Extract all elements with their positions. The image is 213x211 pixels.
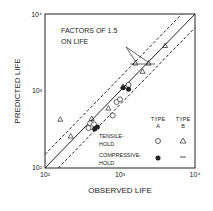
legend-type-a-l1: TYPE: [151, 116, 166, 122]
legend-tensile-l2: HOLD: [99, 141, 114, 147]
x-axis-label: OBSERVED LIFE: [88, 186, 151, 195]
legend-type-b-l1: TYPE: [176, 116, 191, 122]
legend-filled-circle-icon: [156, 156, 161, 161]
x-tick-100: 10²: [40, 171, 51, 178]
y-axis-label: PREDICTED LIFE: [13, 58, 22, 123]
chart: 10² 10³ 10⁴ 10² 10³ 10⁴ OBSERVED LIFE PR…: [0, 0, 213, 211]
data-point: [68, 134, 73, 139]
legend-tensile-l1: TENSILE-: [99, 133, 124, 139]
legend-type-a-l2: A: [156, 123, 160, 129]
x-tick-10000: 10⁴: [190, 171, 201, 178]
data-point: [126, 82, 131, 87]
legend-triangle-icon: [180, 138, 186, 143]
data-point: [106, 106, 111, 111]
x-tick-1000: 10³: [115, 171, 126, 178]
data-point: [86, 126, 91, 131]
data-point: [58, 117, 63, 122]
data-point: [110, 113, 115, 118]
legend-open-circle-icon: [156, 139, 161, 144]
data-point: [121, 85, 126, 90]
legend-compressive-l2: HOLD: [99, 160, 114, 166]
data-point: [95, 125, 100, 130]
annotation-line2: ON LIFE: [61, 38, 89, 45]
y-tick-1000: 10³: [32, 87, 43, 94]
legend-compressive-l1: COMPRESSIVE-: [99, 152, 141, 158]
data-point: [126, 87, 131, 92]
data-point: [118, 97, 123, 102]
y-tick-10000: 10⁴: [31, 11, 42, 18]
y-tick-100: 10²: [32, 164, 43, 171]
annotation-line1: FACTORS OF 1.5: [61, 27, 117, 34]
legend-type-b-l2: B: [181, 123, 185, 129]
